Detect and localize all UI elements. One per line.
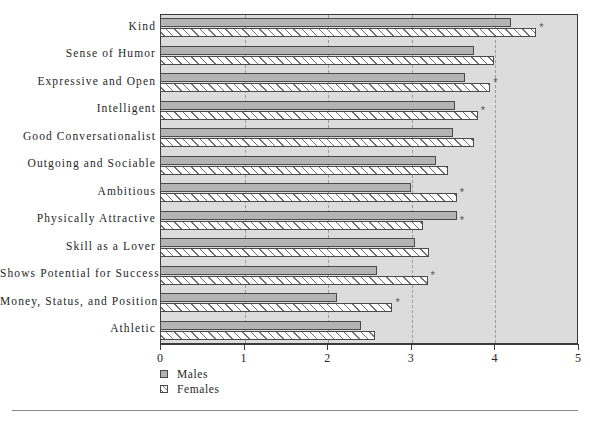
significance-asterisk: * (481, 105, 485, 116)
legend-swatch-females (160, 385, 168, 393)
bar-females (160, 28, 536, 37)
category-label: Shows Potential for Success (0, 267, 156, 279)
bar-males (160, 183, 411, 192)
category-label: Good Conversationalist (0, 130, 156, 142)
significance-asterisk: * (460, 187, 464, 198)
legend-label-males: Males (177, 368, 208, 380)
x-tick (244, 344, 245, 350)
bar-row: * (160, 14, 578, 42)
bar-males (160, 238, 415, 247)
bar-males (160, 128, 453, 137)
legend-item-males: Males (160, 366, 220, 381)
category-label: Outgoing and Sociable (0, 157, 156, 169)
category-label: Kind (0, 20, 156, 32)
significance-asterisk: * (431, 270, 435, 281)
x-tick-label: 0 (150, 351, 170, 366)
bar-males (160, 156, 436, 165)
x-axis-line (160, 344, 578, 345)
category-label: Physically Attractive (0, 212, 156, 224)
significance-asterisk: * (493, 77, 497, 88)
x-tick-label: 4 (484, 351, 504, 366)
significance-asterisk: * (539, 22, 543, 33)
bar-females (160, 111, 478, 120)
bar-females (160, 276, 428, 285)
bar-row (160, 234, 578, 262)
category-label: Sense of Humor (0, 47, 156, 59)
bar-females (160, 248, 429, 257)
bar-row (160, 42, 578, 70)
bar-males (160, 101, 455, 110)
category-label: Skill as a Lover (0, 240, 156, 252)
bar-males (160, 211, 457, 220)
x-tick (494, 344, 495, 350)
bar-rows-container: ******* (160, 14, 578, 344)
bar-males (160, 266, 377, 275)
bar-row (160, 317, 578, 345)
x-tick-label: 3 (401, 351, 421, 366)
x-tick-label: 5 (568, 351, 588, 366)
bar-females (160, 221, 423, 230)
bar-males (160, 321, 361, 330)
x-tick (327, 344, 328, 350)
x-tick (411, 344, 412, 350)
bar-row (160, 152, 578, 180)
significance-asterisk: * (460, 215, 464, 226)
category-label: Ambitious (0, 185, 156, 197)
bar-females (160, 56, 494, 65)
category-label: Money, Status, and Position (0, 295, 156, 307)
bar-females (160, 193, 457, 202)
bar-row: * (160, 179, 578, 207)
chart-legend: Males Females (160, 366, 220, 396)
category-axis-labels: KindSense of HumorExpressive and OpenInt… (0, 14, 158, 344)
bar-females (160, 303, 392, 312)
bottom-divider-rule (12, 410, 578, 411)
bar-row (160, 124, 578, 152)
bar-row: * (160, 289, 578, 317)
bar-row: * (160, 69, 578, 97)
bar-males (160, 73, 465, 82)
bar-females (160, 138, 474, 147)
bar-males (160, 293, 337, 302)
chart-figure: KindSense of HumorExpressive and OpenInt… (0, 0, 590, 422)
bar-row: * (160, 262, 578, 290)
legend-label-females: Females (177, 383, 220, 395)
x-tick-label: 1 (234, 351, 254, 366)
x-tick (160, 344, 161, 350)
category-label: Expressive and Open (0, 75, 156, 87)
bar-males (160, 46, 474, 55)
legend-item-females: Females (160, 381, 220, 396)
category-label: Athletic (0, 322, 156, 334)
x-tick (578, 344, 579, 350)
x-tick-label: 2 (317, 351, 337, 366)
category-label: Intelligent (0, 102, 156, 114)
legend-swatch-males (160, 370, 168, 378)
bar-females (160, 331, 375, 340)
bar-males (160, 18, 511, 27)
bar-females (160, 166, 448, 175)
significance-asterisk: * (395, 297, 399, 308)
bar-row: * (160, 207, 578, 235)
bar-females (160, 83, 490, 92)
bar-row: * (160, 97, 578, 125)
